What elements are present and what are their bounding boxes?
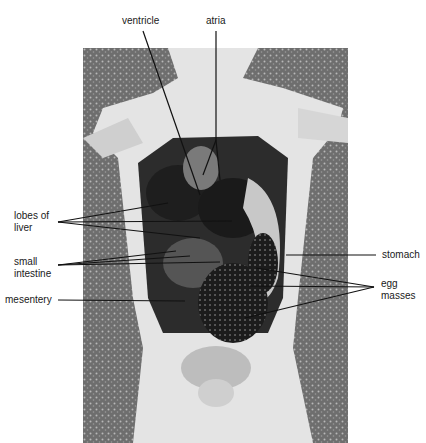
labeled-dissection-figure: ventricle atria lobes of liver small int… <box>0 0 426 443</box>
label-lobes-of-liver-line1: lobes of <box>14 210 49 222</box>
leader-lines <box>0 0 426 443</box>
label-mesentery: mesentery <box>5 294 52 306</box>
label-egg-masses-line2: masses <box>381 290 415 302</box>
label-egg-masses-line1: egg <box>381 278 398 290</box>
label-stomach: stomach <box>382 249 420 261</box>
label-small-intestine-line2: intestine <box>14 268 51 280</box>
label-ventricle: ventricle <box>122 15 159 27</box>
label-small-intestine-line1: small <box>14 256 37 268</box>
label-atria: atria <box>206 15 225 27</box>
label-lobes-of-liver-line2: liver <box>14 222 32 234</box>
